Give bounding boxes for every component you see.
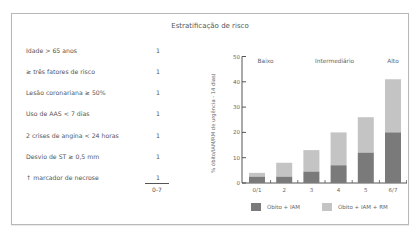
risk-factor-points: 1	[152, 174, 164, 181]
risk-factor-label: 2 crises de angina < 24 horas	[26, 132, 119, 139]
y-tick-label: 40	[233, 79, 240, 85]
y-tick-label: 20	[233, 129, 240, 135]
risk-factor-points: 1	[152, 89, 164, 96]
legend-swatch-dark	[251, 203, 261, 211]
x-tick-label: 0/1	[253, 187, 262, 193]
risk-factor-points: 1	[152, 132, 164, 139]
bar-obito-iam-rm	[385, 79, 401, 132]
risk-factor-label: ≥ três fatores de risco	[26, 68, 95, 75]
x-tick-label: 4	[337, 187, 341, 193]
total-range: 0-7	[145, 186, 169, 193]
x-tick-label: 2	[282, 187, 286, 193]
bar-obito-iam	[385, 132, 401, 183]
risk-factor-label: Lesão coronariana ≥ 50%	[26, 89, 106, 96]
legend-label: Óbito + IAM + RM	[338, 203, 388, 210]
risk-factor-points: 1	[152, 47, 164, 54]
bar-obito-iam-rm	[358, 117, 374, 152]
sum-line	[145, 183, 169, 184]
risk-factor-points: 1	[152, 68, 164, 75]
risk-factor-points: 1	[152, 110, 164, 117]
bar-obito-iam	[303, 172, 319, 183]
x-tick-label: 3	[310, 187, 314, 193]
y-tick-label: 30	[233, 104, 240, 110]
y-tick-label: 10	[233, 155, 240, 161]
stacked-bar-chart: % óbito/IAM/RM de urgência - 14 dias)010…	[201, 41, 407, 225]
risk-factor-label: ↑ marcador de necrose	[26, 174, 99, 181]
risk-factor-label: Desvio de ST ≥ 0,5 mm	[26, 153, 99, 160]
risk-stratification-figure: Estratificação de risco Idade > 65 anos1…	[11, 13, 409, 225]
risk-factor-label: Uso de AAS < 7 dias	[26, 110, 89, 117]
bar-obito-iam-rm	[276, 163, 292, 177]
bar-obito-iam	[331, 165, 347, 183]
figure-title: Estratificação de risco	[12, 22, 408, 30]
bar-obito-iam-rm	[249, 173, 265, 177]
y-tick-label: 0	[237, 180, 241, 186]
bar-obito-iam	[358, 153, 374, 183]
x-tick-label: 5	[364, 187, 368, 193]
bar-obito-iam	[249, 177, 265, 183]
bar-obito-iam-rm	[303, 150, 319, 172]
risk-group-label: Baixo	[258, 58, 274, 64]
bar-obito-iam-rm	[331, 132, 347, 165]
legend-label: Óbito + IAM	[267, 203, 300, 210]
risk-factor-label: Idade > 65 anos	[26, 47, 77, 54]
x-tick-label: 6/7	[389, 187, 398, 193]
y-axis-label: % óbito/IAM/RM de urgência - 14 dias)	[210, 73, 217, 172]
risk-group-label: Alto	[387, 58, 399, 64]
legend-swatch-light	[322, 203, 332, 211]
y-tick-label: 50	[233, 54, 240, 60]
bar-obito-iam	[276, 177, 292, 183]
risk-group-label: Intermediário	[315, 58, 355, 64]
risk-factor-points: 1	[152, 153, 164, 160]
